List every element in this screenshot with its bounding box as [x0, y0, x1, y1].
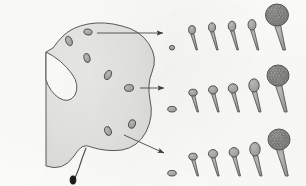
development-row-1-stage-3 — [208, 23, 218, 50]
development-row-1-stage-1 — [169, 45, 174, 50]
development-row-3-stage-1 — [168, 170, 177, 176]
development-row-1-stage-2 — [189, 26, 198, 50]
cell-head — [228, 21, 236, 31]
cell-head — [228, 84, 238, 93]
cell-head — [189, 89, 197, 96]
cell-head — [249, 79, 259, 92]
cell-head — [250, 142, 260, 156]
figure-root — [0, 0, 306, 186]
development-row-3-stage-2 — [189, 153, 199, 176]
development-row-2-stage-2 — [189, 89, 199, 112]
development-row-2 — [168, 64, 292, 112]
sporangium-development-diagram — [0, 0, 306, 186]
plasmodium-foot-tip — [70, 176, 76, 184]
stalk — [191, 95, 198, 112]
cell-head — [209, 86, 218, 94]
plasmodium-body — [46, 23, 154, 184]
development-row-3-stage-4 — [229, 148, 240, 176]
cell-head — [208, 150, 217, 158]
stalk — [250, 29, 259, 50]
development-row-2-stage-6 — [266, 64, 292, 112]
development-row-3-stage-6 — [267, 128, 293, 176]
stalk — [231, 92, 239, 112]
development-row-2-stage-4 — [228, 84, 239, 112]
development-row-1-stage-5 — [248, 20, 259, 50]
development-row-3-stage-3 — [208, 150, 219, 176]
cell-head — [169, 45, 174, 50]
stalk — [232, 156, 240, 176]
development-row-1-stage-6 — [264, 2, 290, 50]
development-row-1-stage-4 — [228, 21, 238, 50]
cell-head — [229, 148, 239, 157]
stalk — [191, 159, 198, 176]
stalk — [211, 157, 219, 176]
cell-head — [189, 26, 196, 34]
development-row-3 — [168, 128, 293, 176]
development-row-1 — [169, 2, 290, 50]
development-row-2-stage-5 — [249, 79, 261, 112]
stalk — [252, 90, 261, 112]
cell-head — [208, 23, 215, 32]
cell-head — [248, 20, 256, 30]
development-row-2-stage-3 — [209, 86, 220, 112]
stalk — [276, 147, 289, 176]
development-row-3-stage-5 — [250, 142, 262, 176]
cell-head — [168, 170, 177, 176]
stalk — [275, 83, 288, 112]
development-row-2-stage-1 — [168, 106, 177, 112]
cell-head — [168, 106, 177, 112]
stalk — [210, 31, 218, 50]
stalk — [253, 154, 263, 176]
stalk — [211, 93, 219, 112]
stalk — [190, 33, 197, 50]
cell-head — [189, 153, 197, 160]
stalk — [274, 23, 286, 50]
stalk — [230, 30, 238, 50]
development-sequences — [168, 2, 293, 176]
